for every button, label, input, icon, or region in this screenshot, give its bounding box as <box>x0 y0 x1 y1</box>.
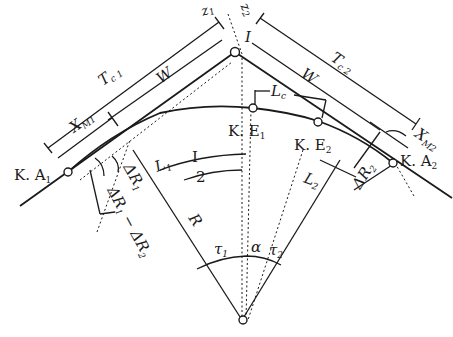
i-half-numerator: I <box>192 148 198 166</box>
r-label: R <box>184 209 206 229</box>
ka2-label: K. A2 <box>400 152 437 171</box>
tc2-label: Tc 2 <box>327 48 357 77</box>
z1-label: z1 <box>198 0 216 20</box>
i-half-denominator: 2 <box>196 168 206 186</box>
tau2-label: τ2 <box>269 241 283 260</box>
i-top-label: I <box>244 28 252 46</box>
w-left-label: W <box>153 63 177 88</box>
intersection-point <box>231 48 240 57</box>
z2-label: z2 <box>236 0 257 19</box>
ke2-point <box>314 118 322 126</box>
l2-label: L2 <box>300 169 322 193</box>
ka1-label: K. A1 <box>14 166 51 185</box>
tc1-label: Tc 1 <box>95 61 125 90</box>
center-point <box>239 316 247 324</box>
ke1-point <box>249 104 257 112</box>
angle-labels: τ1 α τ2 <box>214 238 283 260</box>
alpha-label: α <box>251 238 261 256</box>
ke1-label: K. E1 <box>228 122 265 141</box>
xm2-label: XM2 <box>410 124 443 155</box>
tau1-label: τ1 <box>214 240 228 259</box>
ke2-label: K. E2 <box>294 136 331 155</box>
i-half-arc-2 <box>184 170 242 180</box>
ka2-point <box>389 159 397 167</box>
detail-markers <box>90 90 392 214</box>
curve-geometry-diagram: K. A1 K. A2 K. E1 K. E2 Tc 1 Tc 2 W W XM… <box>0 0 453 337</box>
diagram-canvas: K. A1 K. A2 K. E1 K. E2 Tc 1 Tc 2 W W XM… <box>0 0 453 337</box>
dr-diff-label: ΔR1− ΔR2 <box>102 183 156 261</box>
l1-label: L1 <box>151 153 173 177</box>
ka1-point <box>64 168 72 176</box>
w-right-label: W <box>298 64 322 88</box>
